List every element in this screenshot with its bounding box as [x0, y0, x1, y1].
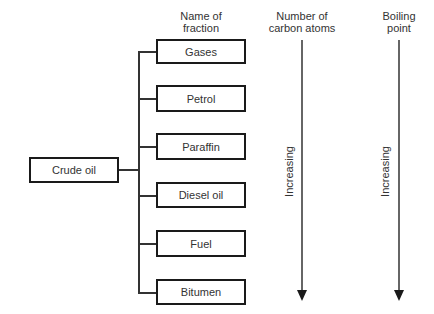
arrowhead-down-icon: [297, 290, 307, 301]
boiling-point-trend-label: Increasing: [379, 144, 392, 200]
boiling-point-arrow: [394, 40, 404, 301]
carbon-atoms-arrow: [297, 40, 307, 301]
arrows-layer: [0, 0, 434, 314]
carbon-atoms-trend-label: Increasing: [283, 144, 296, 200]
arrowhead-down-icon: [394, 290, 404, 301]
